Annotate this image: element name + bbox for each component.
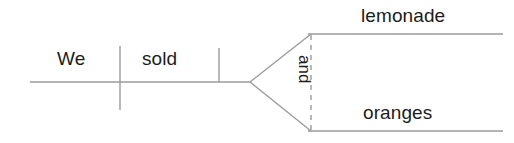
subject-label: We	[57, 49, 85, 68]
verb-label: sold	[142, 49, 177, 68]
sentence-diagram: We sold lemonade and oranges	[0, 0, 514, 143]
direct-object-label-oranges: oranges	[363, 103, 432, 122]
conjunction-label: and	[296, 55, 313, 84]
direct-object-label-lemonade: lemonade	[361, 6, 445, 25]
compound-object-lower-diagonal	[250, 82, 311, 131]
